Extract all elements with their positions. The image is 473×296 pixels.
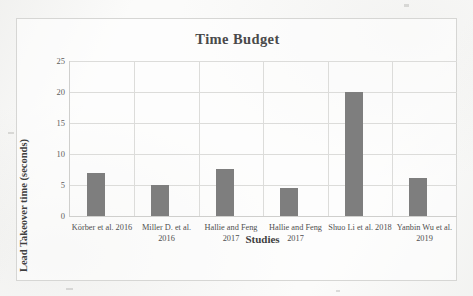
category-divider-2 xyxy=(199,61,200,216)
y-tick-label-5: 5 xyxy=(61,180,65,190)
y-axis-title: Lead Takeover time (seconds) xyxy=(18,139,29,272)
bar-yanbin-wu-2019 xyxy=(409,178,427,216)
x-tick-label-0: Körber et al. 2016 xyxy=(70,222,134,233)
scan-speck xyxy=(404,4,409,7)
bar-miller-2016 xyxy=(151,185,169,216)
y-tick-label-15: 15 xyxy=(57,118,66,128)
category-divider-5 xyxy=(392,61,393,216)
scan-speck xyxy=(66,288,73,290)
y-axis-title-container: Lead Takeover time (seconds) xyxy=(33,61,34,216)
x-tick-label-4: Shuo Li et al. 2018 xyxy=(328,222,392,233)
chart-frame: Time Budget Lead Takeover time (seconds)… xyxy=(16,18,457,281)
bar-hallie-feng-2017 xyxy=(216,169,234,216)
bar-korber-2016 xyxy=(87,173,105,216)
y-tick-label-0: 0 xyxy=(61,211,65,221)
chart-title: Time Budget xyxy=(17,31,458,48)
y-tick-label-10: 10 xyxy=(57,149,66,159)
bar-hallie-feng-2017-b xyxy=(280,188,298,216)
scan-speck xyxy=(8,132,14,134)
y-tick-label-20: 20 xyxy=(57,87,66,97)
y-tick-label-25: 25 xyxy=(57,56,66,66)
category-divider-3 xyxy=(263,61,264,216)
bar-shuo-li-2018 xyxy=(345,92,363,216)
x-axis-title: Studies xyxy=(69,233,456,245)
category-divider-4 xyxy=(328,61,329,216)
category-divider-1 xyxy=(134,61,135,216)
chart-page: Time Budget Lead Takeover time (seconds)… xyxy=(0,0,473,296)
plot-area: 0 5 10 15 20 25 Körber et al. 2016 Mille… xyxy=(69,61,457,217)
scan-speck xyxy=(336,290,340,292)
